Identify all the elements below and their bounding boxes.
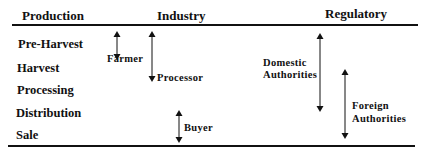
responsibility-diagram: Production Industry Regulatory Pre-Harve… bbox=[0, 0, 426, 151]
label-domestic-line1: Domestic bbox=[263, 58, 307, 69]
label-foreign-line1: Foreign bbox=[352, 101, 389, 112]
buyer-double-arrow-icon bbox=[176, 110, 183, 143]
label-farmer: Farmer bbox=[107, 54, 143, 65]
domestic-authorities-double-arrow-icon bbox=[317, 33, 324, 112]
label-foreign-line2: Authorities bbox=[352, 114, 406, 125]
foreign-authorities-double-arrow-icon bbox=[342, 69, 349, 139]
label-domestic-line2: Authorities bbox=[263, 70, 317, 81]
label-buyer: Buyer bbox=[184, 123, 213, 134]
arrows-layer bbox=[0, 0, 426, 151]
processor-double-arrow-icon bbox=[149, 31, 156, 82]
label-processor: Processor bbox=[157, 73, 203, 84]
